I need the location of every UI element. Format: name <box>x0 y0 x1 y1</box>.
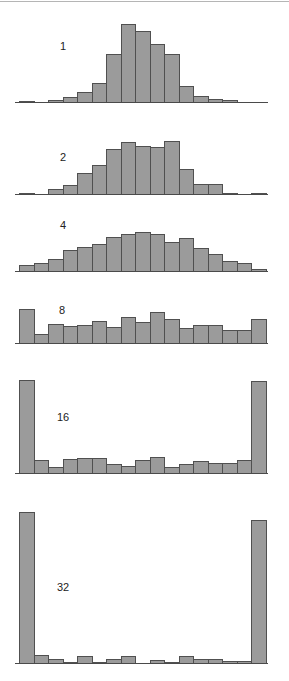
histogram-bar <box>92 165 107 194</box>
histogram-bar <box>106 464 122 473</box>
histogram-bar <box>179 169 194 194</box>
histogram-bar <box>92 321 107 343</box>
histogram-bar <box>106 237 122 271</box>
histogram-bar <box>19 265 35 271</box>
histogram-bar <box>77 325 93 343</box>
histogram-bar <box>48 324 64 343</box>
histogram-bar <box>63 459 78 473</box>
panel-label: 32 <box>57 582 69 593</box>
histogram-bar <box>92 83 107 102</box>
histogram-bar <box>19 512 35 663</box>
histogram-bar <box>77 92 93 102</box>
histogram-bar <box>106 149 122 194</box>
histogram-bar <box>164 319 180 343</box>
histogram-bar <box>208 254 223 271</box>
histogram-bar <box>193 96 209 102</box>
histogram-bar <box>135 322 151 343</box>
histogram-bar <box>92 244 107 271</box>
histogram-bar <box>121 142 136 194</box>
histogram-bar <box>121 317 136 343</box>
histogram-bar <box>251 193 267 194</box>
histogram-bar <box>34 655 49 663</box>
histogram-bar <box>48 189 64 194</box>
histogram-bar <box>179 238 194 271</box>
histogram-bar <box>63 250 78 271</box>
panel-label: 16 <box>57 412 69 423</box>
histogram-bar <box>121 24 136 102</box>
histogram-bar <box>179 464 194 473</box>
histogram-bar <box>150 660 165 663</box>
histogram-bar <box>121 656 136 663</box>
histogram-bar <box>251 381 267 473</box>
x-axis-baseline <box>15 194 268 195</box>
histogram-bar <box>179 86 194 102</box>
histogram-bar <box>150 147 165 194</box>
histogram-bar <box>179 328 194 343</box>
histogram-bar <box>34 460 49 473</box>
histogram-bar <box>222 661 238 663</box>
histogram-bar <box>193 325 209 343</box>
histogram-bar <box>222 193 238 194</box>
panel-label: 1 <box>60 41 66 52</box>
histogram-bar <box>63 662 78 663</box>
histogram-bar <box>92 458 107 473</box>
histogram-bar <box>121 466 136 473</box>
histogram-bar <box>135 460 151 473</box>
top-border-rule <box>0 1 289 2</box>
histogram-bar <box>237 661 252 663</box>
x-axis-baseline <box>15 473 268 474</box>
histogram-bar <box>208 99 223 102</box>
histogram-bar <box>237 263 252 271</box>
histogram-bar <box>208 463 223 473</box>
histogram-bar <box>63 326 78 343</box>
x-axis-baseline <box>15 663 268 664</box>
histogram-bar <box>222 261 238 271</box>
histogram-bar <box>34 263 49 271</box>
histogram-bar <box>77 173 93 194</box>
histogram-bar <box>19 380 35 473</box>
panel-label: 4 <box>60 220 66 231</box>
histogram-bar <box>150 457 165 473</box>
histogram-bar <box>106 327 122 343</box>
histogram-bar <box>208 659 223 663</box>
histogram-bar <box>77 458 93 473</box>
histogram-bar <box>150 234 165 271</box>
histogram-bar <box>48 467 64 473</box>
histogram-bar <box>237 330 252 343</box>
histogram-bar <box>164 467 180 473</box>
histogram-bar <box>179 656 194 663</box>
histogram-bar <box>19 193 35 194</box>
histogram-bar <box>251 520 267 663</box>
histogram-bar <box>193 461 209 473</box>
histogram-bar <box>121 234 136 271</box>
histogram-bar <box>48 100 64 102</box>
x-axis-baseline <box>15 343 268 344</box>
histogram-bar <box>193 248 209 271</box>
histogram-bar <box>63 97 78 102</box>
histogram-bar <box>251 319 267 343</box>
histogram-bar <box>150 44 165 102</box>
histogram-bar <box>77 656 93 663</box>
histogram-bar <box>150 312 165 343</box>
histogram-bar <box>164 242 180 271</box>
histogram-bar <box>135 146 151 194</box>
histogram-bar <box>164 141 180 194</box>
histogram-bar <box>237 460 252 473</box>
histogram-bar <box>164 54 180 102</box>
histogram-bar <box>34 334 49 343</box>
histogram-bar <box>48 259 64 271</box>
histogram-bar <box>19 101 35 102</box>
histogram-bar <box>135 232 151 271</box>
histogram-bar <box>92 662 107 663</box>
histogram-bar <box>135 31 151 102</box>
panel-label: 8 <box>59 305 65 316</box>
histogram-bar <box>106 659 122 663</box>
x-axis-baseline <box>15 102 268 103</box>
histogram-bar <box>77 247 93 271</box>
x-axis-baseline <box>15 271 268 272</box>
histogram-bar <box>208 184 223 194</box>
histogram-bar <box>193 659 209 663</box>
histogram-bar <box>193 184 209 194</box>
panel-label: 2 <box>60 152 66 163</box>
histogram-bar <box>222 100 238 102</box>
